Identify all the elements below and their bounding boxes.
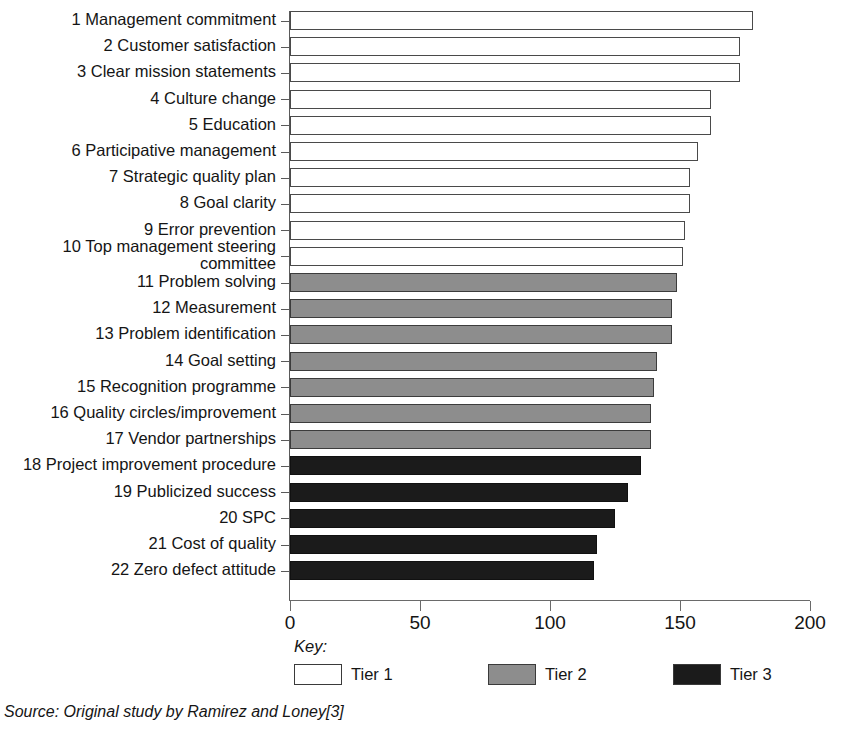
bar-row bbox=[290, 116, 711, 135]
bar-row bbox=[290, 378, 654, 397]
bar bbox=[290, 90, 711, 109]
y-axis-tick bbox=[281, 47, 290, 48]
bar-row bbox=[290, 299, 672, 318]
category-label: 14 Goal setting bbox=[0, 352, 276, 369]
bar bbox=[290, 273, 677, 292]
x-axis-tick bbox=[550, 601, 551, 611]
legend-item-tier-1: Tier 1 bbox=[294, 663, 393, 685]
legend-label: Tier 3 bbox=[730, 665, 772, 684]
legend-swatch bbox=[488, 664, 536, 685]
bar-row bbox=[290, 37, 740, 56]
x-axis-tick-label: 200 bbox=[794, 612, 826, 634]
x-axis-tick-label: 150 bbox=[664, 612, 696, 634]
bar bbox=[290, 456, 641, 475]
category-label: 2 Customer satisfaction bbox=[0, 37, 276, 54]
y-axis-tick bbox=[281, 440, 290, 441]
bar bbox=[290, 483, 628, 502]
legend-item-tier-2: Tier 2 bbox=[488, 663, 587, 685]
plot-area bbox=[290, 11, 810, 600]
bar bbox=[290, 247, 683, 266]
bar-row bbox=[290, 90, 711, 109]
bar bbox=[290, 116, 711, 135]
legend-label: Tier 1 bbox=[351, 665, 393, 684]
bar bbox=[290, 168, 690, 187]
chart-page: 1 Management commitment2 Customer satisf… bbox=[0, 0, 846, 732]
category-label: 7 Strategic quality plan bbox=[0, 168, 276, 185]
category-label: 4 Culture change bbox=[0, 90, 276, 107]
bar bbox=[290, 378, 654, 397]
legend-item-tier-3: Tier 3 bbox=[673, 663, 772, 685]
bar bbox=[290, 194, 690, 213]
bar-row bbox=[290, 456, 641, 475]
x-axis-tick bbox=[290, 601, 291, 611]
y-axis-tick bbox=[281, 21, 290, 22]
bar-row bbox=[290, 535, 597, 554]
x-axis-tick bbox=[810, 601, 811, 611]
y-axis-tick bbox=[281, 335, 290, 336]
category-label: 13 Problem identification bbox=[0, 325, 276, 342]
bar-row bbox=[290, 325, 672, 344]
category-label: 3 Clear mission statements bbox=[0, 63, 276, 80]
bar-row bbox=[290, 11, 753, 30]
bar-row bbox=[290, 561, 594, 580]
category-label: 19 Publicized success bbox=[0, 483, 276, 500]
bar-row bbox=[290, 221, 685, 240]
category-label: 1 Management commitment bbox=[0, 11, 276, 28]
y-axis-tick bbox=[281, 518, 290, 519]
bar bbox=[290, 299, 672, 318]
y-axis-tick bbox=[281, 178, 290, 179]
x-axis-tick-label: 0 bbox=[285, 612, 296, 634]
y-axis-tick bbox=[281, 125, 290, 126]
y-axis-tick bbox=[281, 99, 290, 100]
y-axis-tick bbox=[281, 73, 290, 74]
bar-row bbox=[290, 142, 698, 161]
category-label: 12 Measurement bbox=[0, 299, 276, 316]
category-label: 15 Recognition programme bbox=[0, 378, 276, 395]
x-axis-tick bbox=[420, 601, 421, 611]
x-axis-tick-label: 100 bbox=[534, 612, 566, 634]
y-axis-tick bbox=[281, 387, 290, 388]
bar bbox=[290, 11, 753, 30]
category-label: 6 Participative management bbox=[0, 142, 276, 159]
bar bbox=[290, 509, 615, 528]
category-label: 9 Error prevention bbox=[0, 221, 276, 238]
category-label: 5 Education bbox=[0, 116, 276, 133]
bar-row bbox=[290, 404, 651, 423]
bar bbox=[290, 142, 698, 161]
y-axis-tick bbox=[281, 309, 290, 310]
category-label: 16 Quality circles/improvement bbox=[0, 404, 276, 421]
bar-row bbox=[290, 430, 651, 449]
y-axis-tick bbox=[281, 204, 290, 205]
bar-row bbox=[290, 273, 677, 292]
bar bbox=[290, 535, 597, 554]
bar bbox=[290, 325, 672, 344]
bar bbox=[290, 430, 651, 449]
legend: Key: Tier 1Tier 2Tier 3 bbox=[288, 637, 708, 693]
category-label: 21 Cost of quality bbox=[0, 535, 276, 552]
legend-swatch bbox=[294, 664, 342, 685]
category-label: 8 Goal clarity bbox=[0, 194, 276, 211]
bar-row bbox=[290, 352, 657, 371]
category-label: 22 Zero defect attitude bbox=[0, 561, 276, 578]
source-caption: Source: Original study by Ramirez and Lo… bbox=[4, 703, 344, 721]
y-axis-tick bbox=[281, 361, 290, 362]
category-axis-labels: 1 Management commitment2 Customer satisf… bbox=[0, 0, 276, 600]
y-axis-tick bbox=[281, 571, 290, 572]
bar-row bbox=[290, 247, 683, 266]
bar-row bbox=[290, 194, 690, 213]
bar-row bbox=[290, 63, 740, 82]
bar bbox=[290, 221, 685, 240]
legend-label: Tier 2 bbox=[545, 665, 587, 684]
category-label: 20 SPC bbox=[0, 509, 276, 526]
bar bbox=[290, 352, 657, 371]
y-axis-tick bbox=[281, 545, 290, 546]
bar bbox=[290, 404, 651, 423]
category-label: 17 Vendor partnerships bbox=[0, 430, 276, 447]
bar bbox=[290, 63, 740, 82]
bar bbox=[290, 37, 740, 56]
y-axis-tick bbox=[281, 466, 290, 467]
legend-swatch bbox=[673, 664, 721, 685]
x-axis-tick bbox=[680, 601, 681, 611]
y-axis-tick bbox=[281, 492, 290, 493]
bar bbox=[290, 561, 594, 580]
